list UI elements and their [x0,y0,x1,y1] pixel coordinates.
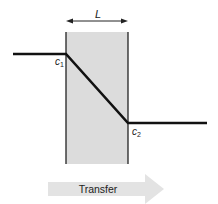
c1-label: c1 [55,56,64,68]
thickness-label: L [95,8,101,20]
membrane-diagram: L c1 c2 Transfer [0,0,218,204]
arrowhead-right-icon [121,19,128,24]
arrowhead-left-icon [66,19,73,24]
membrane-slab [66,32,128,164]
c2-label: c2 [132,126,141,138]
transfer-label: Transfer [79,183,118,195]
